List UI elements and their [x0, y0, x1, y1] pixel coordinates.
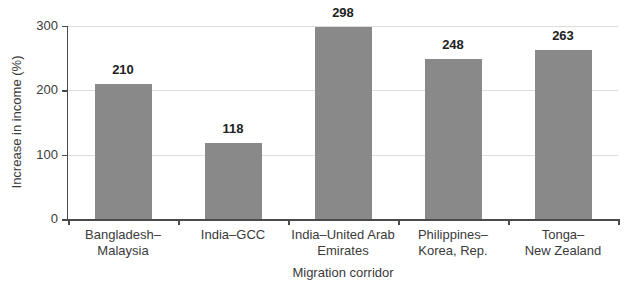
- x-tick-label: Philippines– Korea, Rep.: [398, 227, 508, 259]
- y-tick-label: 0: [24, 211, 58, 227]
- bar: [205, 143, 262, 219]
- plot-area: 0100200300210Bangladesh– Malaysia118Indi…: [0, 0, 627, 294]
- bar: [315, 27, 372, 219]
- bar-value-label: 118: [203, 121, 263, 137]
- x-tick-label: India–United Arab Emirates: [288, 227, 398, 259]
- bar: [95, 84, 152, 219]
- x-tick-label: Tonga– New Zealand: [508, 227, 618, 259]
- y-tick-label: 300: [24, 18, 58, 34]
- bar: [425, 59, 482, 219]
- bar-value-label: 263: [533, 28, 593, 44]
- bar-value-label: 210: [93, 62, 153, 78]
- bar-value-label: 248: [423, 37, 483, 53]
- x-axis-title: Migration corridor: [292, 265, 393, 280]
- bar-value-label: 298: [313, 5, 373, 21]
- bar: [535, 50, 592, 219]
- bar-chart: Increase in income (%) 0100200300210Bang…: [0, 0, 627, 294]
- y-tick-label: 100: [24, 147, 58, 163]
- x-axis-line: [68, 219, 620, 221]
- y-axis-line: [67, 26, 69, 221]
- x-tick-label: Bangladesh– Malaysia: [68, 227, 178, 259]
- y-tick-label: 200: [24, 82, 58, 98]
- x-tick-label: India–GCC: [178, 227, 288, 243]
